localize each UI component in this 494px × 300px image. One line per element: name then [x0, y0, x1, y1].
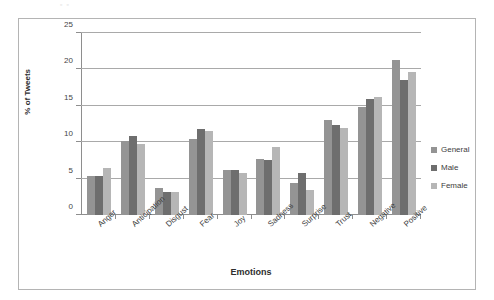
legend-swatch-icon — [431, 147, 437, 153]
y-axis-tick — [76, 178, 81, 179]
x-axis-label: Joy — [232, 214, 247, 229]
bar — [366, 99, 374, 215]
legend-swatch-icon — [431, 183, 437, 189]
bar — [137, 144, 145, 215]
x-axis-label-cell: Joy — [218, 215, 252, 267]
bar — [239, 173, 247, 215]
y-axis-title: % of Tweets — [23, 69, 37, 115]
y-axis-tick — [76, 32, 81, 33]
bar — [358, 107, 366, 215]
y-axis-tick-label: 5 — [69, 165, 73, 174]
y-axis-tick — [76, 68, 81, 69]
bar-group — [218, 33, 252, 215]
x-axis-label-cell: Trust — [320, 215, 354, 267]
bar — [324, 120, 332, 215]
bar — [340, 128, 348, 215]
bar — [223, 170, 231, 215]
bar-group — [116, 33, 150, 215]
bar — [121, 141, 129, 215]
x-axis-label-cell: Anger — [82, 215, 116, 267]
plot-area: 0510152025 — [81, 33, 421, 215]
bar — [231, 170, 239, 215]
bar — [400, 80, 408, 215]
bar — [392, 60, 400, 215]
x-axis-label-cell: Sadness — [252, 215, 286, 267]
legend-item[interactable]: Female — [431, 181, 491, 190]
x-axis-label-cell: Fear — [184, 215, 218, 267]
bar — [264, 160, 272, 215]
bar-group — [150, 33, 184, 215]
bar-group — [252, 33, 286, 215]
x-axis-label-cell: Surprise — [286, 215, 320, 267]
bar — [189, 139, 197, 215]
y-axis-tick — [76, 141, 81, 142]
y-axis-tick-label: 25 — [64, 20, 73, 29]
legend-item[interactable]: Male — [431, 163, 491, 172]
bars-layer — [82, 33, 421, 215]
bar — [205, 131, 213, 215]
bar-group — [319, 33, 353, 215]
y-axis-tick-label: 0 — [69, 202, 73, 211]
bar-group — [82, 33, 116, 215]
chart-legend: GeneralMaleFemale — [431, 145, 491, 199]
legend-label: Male — [441, 163, 458, 172]
y-axis-tick-label: 15 — [64, 92, 73, 101]
x-axis-label-cell: Disgust — [150, 215, 184, 267]
bar — [408, 72, 416, 215]
bar — [374, 97, 382, 215]
bar-group — [387, 33, 421, 215]
legend-swatch-icon — [431, 165, 437, 171]
bar — [87, 176, 95, 215]
x-axis-label-cell: Anticipation — [116, 215, 150, 267]
bar — [332, 125, 340, 215]
x-axis-labels: AngerAnticipationDisgustFearJoySadnessSu… — [82, 215, 422, 267]
bar-group — [184, 33, 218, 215]
scan-artifact: ▫ ▫ — [60, 1, 70, 8]
bar-group — [285, 33, 319, 215]
bar — [129, 136, 137, 215]
x-axis-label-cell: Negative — [354, 215, 388, 267]
bar — [298, 173, 306, 215]
y-axis-tick — [76, 105, 81, 106]
x-axis-title: Emotions — [81, 267, 421, 277]
legend-label: General — [441, 145, 469, 154]
chart-frame: % of Tweets 0510152025 AngerAnticipation… — [18, 18, 476, 290]
bar-group — [353, 33, 387, 215]
bar — [272, 147, 280, 215]
legend-label: Female — [441, 181, 468, 190]
bar — [256, 159, 264, 215]
plot-inner: 0510152025 — [81, 33, 421, 215]
y-axis-tick — [76, 214, 81, 215]
legend-item[interactable]: General — [431, 145, 491, 154]
bar — [197, 129, 205, 215]
x-axis-label-cell: Positive — [388, 215, 422, 267]
bar — [163, 192, 171, 215]
y-axis-tick-label: 20 — [64, 56, 73, 65]
y-axis-tick-label: 10 — [64, 129, 73, 138]
bar — [95, 176, 103, 215]
